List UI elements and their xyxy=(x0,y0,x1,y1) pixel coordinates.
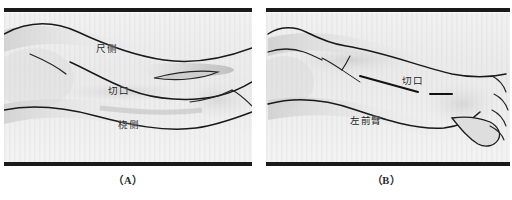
panel-b-caption-text: （B） xyxy=(372,175,401,186)
label-ulnar-side: 尺侧 xyxy=(96,44,117,54)
figure-two-panel-forearm-illustration: 尺侧 切口 桡侧 （A） xyxy=(0,0,512,200)
panel-b-line-art xyxy=(266,8,510,166)
panel-a-bottom-rule xyxy=(4,162,252,166)
panel-b-bottom-rule xyxy=(266,162,510,166)
label-left-forearm: 左前臂 xyxy=(350,116,382,126)
panel-a: 尺侧 切口 桡侧 （A） xyxy=(0,0,256,200)
panel-b-plate: 切口 左前臂 xyxy=(266,8,510,166)
panel-a-caption-text: （A） xyxy=(113,175,142,186)
panel-b: 切口 左前臂 （B） xyxy=(260,0,512,200)
label-incision: 切口 xyxy=(402,76,423,86)
label-incision: 切口 xyxy=(108,86,129,96)
panel-b-caption: （B） xyxy=(260,172,512,187)
label-radial-side: 桡侧 xyxy=(118,120,139,130)
panel-a-caption: （A） xyxy=(0,172,256,187)
panel-a-plate: 尺侧 切口 桡侧 xyxy=(4,8,252,166)
